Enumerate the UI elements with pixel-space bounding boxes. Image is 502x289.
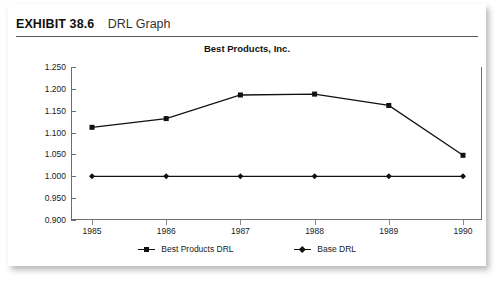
data-point-square-marker bbox=[386, 103, 391, 108]
header-divider bbox=[16, 36, 478, 37]
data-point-square-marker bbox=[461, 153, 466, 158]
data-point-square-marker bbox=[238, 92, 243, 97]
chart-area: Best Products, Inc. 0.9000.9501.0001.050… bbox=[8, 40, 486, 266]
series-plot bbox=[8, 40, 486, 266]
exhibit-card: EXHIBIT 38.6 DRL Graph Best Products, In… bbox=[8, 4, 486, 266]
data-point-square-marker bbox=[312, 92, 317, 97]
diamond-marker-icon bbox=[294, 245, 311, 254]
data-point-diamond-marker bbox=[89, 173, 95, 179]
legend-label-best-products-drl: Best Products DRL bbox=[161, 244, 233, 254]
data-point-diamond-marker bbox=[163, 173, 169, 179]
exhibit-label: EXHIBIT 38.6 bbox=[16, 17, 94, 31]
data-point-diamond-marker bbox=[237, 173, 243, 179]
chart-legend: Best Products DRL Base DRL bbox=[8, 243, 486, 254]
data-point-square-marker bbox=[90, 125, 95, 130]
series-line bbox=[92, 94, 463, 155]
legend-label-base-drl: Base DRL bbox=[317, 244, 356, 254]
data-point-diamond-marker bbox=[460, 173, 466, 179]
square-marker-icon bbox=[138, 245, 155, 254]
exhibit-title: DRL Graph bbox=[108, 17, 171, 31]
data-point-diamond-marker bbox=[312, 173, 318, 179]
legend-item-base-drl: Base DRL bbox=[294, 243, 356, 254]
legend-item-best-products-drl: Best Products DRL bbox=[138, 243, 234, 254]
data-point-diamond-marker bbox=[386, 173, 392, 179]
data-point-square-marker bbox=[164, 116, 169, 121]
